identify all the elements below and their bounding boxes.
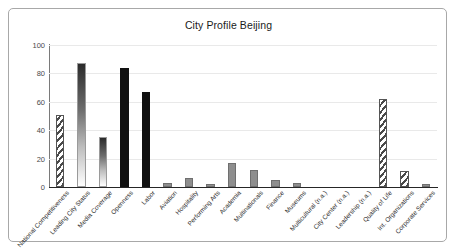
bar-quality-of-life bbox=[379, 99, 388, 187]
bar-aviation bbox=[163, 183, 172, 187]
y-tick-label: 40 bbox=[15, 126, 45, 135]
bar-multinationals bbox=[250, 170, 259, 187]
x-axis-tick-labels: National CompetitivenessLeading City Sta… bbox=[49, 189, 449, 252]
y-axis-tick-labels: 020406080100 bbox=[13, 45, 45, 187]
y-tick-label: 60 bbox=[15, 97, 45, 106]
bar-museums bbox=[293, 183, 302, 187]
plot-area bbox=[49, 45, 437, 187]
gridline bbox=[49, 73, 437, 74]
bar-openness bbox=[120, 68, 129, 187]
x-tick-label: Leading City Status bbox=[49, 189, 92, 236]
bar-performing-arts bbox=[206, 184, 215, 187]
bar-national-competitiveness bbox=[56, 115, 65, 187]
x-tick-label: Corporate Services bbox=[394, 189, 436, 235]
bar-hospitality bbox=[185, 178, 194, 187]
x-tick-label: Finance bbox=[265, 189, 286, 211]
bar-academia bbox=[228, 163, 237, 187]
x-tick-label: Labor bbox=[140, 189, 156, 206]
bar-labor bbox=[142, 92, 151, 187]
y-tick-label: 100 bbox=[15, 41, 45, 50]
chart-frame: City Profile Beijing 020406080100 Nation… bbox=[8, 8, 447, 242]
bar-int-organizations bbox=[400, 171, 409, 187]
x-tick-label: Aviation bbox=[157, 189, 178, 211]
bar-leading-city-status bbox=[77, 63, 86, 187]
y-tick-label: 20 bbox=[15, 154, 45, 163]
bar-media-coverage bbox=[99, 137, 108, 187]
bar-corporate-services bbox=[422, 184, 431, 187]
bar-finance bbox=[271, 180, 280, 187]
y-tick-label: 0 bbox=[15, 183, 45, 192]
gridline bbox=[49, 45, 437, 46]
y-tick-label: 80 bbox=[15, 69, 45, 78]
chart-title: City Profile Beijing bbox=[9, 19, 448, 31]
